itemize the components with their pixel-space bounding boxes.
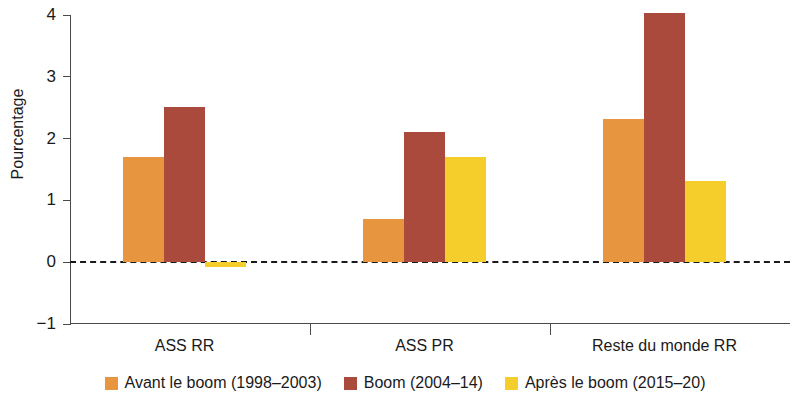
- x-axis-group-separator: [550, 323, 551, 335]
- legend-swatch-icon: [505, 377, 518, 390]
- legend-item[interactable]: Boom (2004–14): [344, 374, 483, 392]
- y-axis-tick: [63, 324, 71, 325]
- legend-item[interactable]: Avant le boom (1998–2003): [105, 374, 322, 392]
- bar: [603, 119, 644, 262]
- x-axis-group-separator: [310, 323, 311, 335]
- bar-chart: Pourcentage 43210−1 ASS RRASS PRReste du…: [0, 0, 810, 405]
- bar: [205, 262, 246, 267]
- chart-legend: Avant le boom (1998–2003)Boom (2004–14)A…: [0, 374, 810, 392]
- bar: [445, 157, 486, 263]
- bar: [164, 107, 205, 262]
- y-axis-tick-label: 4: [8, 6, 56, 23]
- bar: [685, 181, 726, 263]
- y-axis-tick-label: 2: [8, 130, 56, 147]
- y-axis-tick-label: 1: [8, 191, 56, 208]
- bar: [404, 132, 445, 262]
- legend-swatch-icon: [105, 377, 118, 390]
- legend-label: Après le boom (2015–20): [525, 374, 706, 392]
- legend-swatch-icon: [344, 377, 357, 390]
- bar: [363, 219, 404, 262]
- plot-area: [70, 15, 790, 324]
- x-axis-category-label: ASS PR: [315, 337, 535, 355]
- legend-label: Boom (2004–14): [364, 374, 483, 392]
- y-axis-tick-label: −1: [8, 315, 56, 332]
- bar: [123, 157, 164, 262]
- y-axis-tick-label: 3: [8, 68, 56, 85]
- legend-item[interactable]: Après le boom (2015–20): [505, 374, 706, 392]
- legend-label: Avant le boom (1998–2003): [125, 374, 322, 392]
- x-axis-category-label: ASS RR: [75, 337, 295, 355]
- bar: [644, 13, 685, 263]
- y-axis-tick-label: 0: [8, 253, 56, 270]
- x-axis-category-label: Reste du monde RR: [555, 337, 775, 355]
